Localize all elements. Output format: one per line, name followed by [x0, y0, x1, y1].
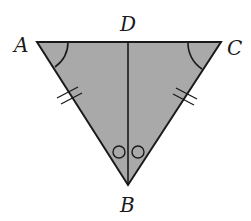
label-d: D [119, 12, 136, 36]
label-a: A [12, 33, 28, 57]
triangle-abc [37, 42, 221, 185]
label-b: B [119, 193, 135, 217]
triangle-diagram: A D C B [0, 0, 251, 221]
label-c: C [227, 36, 242, 60]
